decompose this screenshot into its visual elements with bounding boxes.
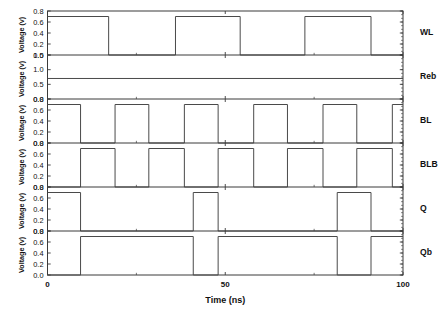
y-tick-label: 0.2 (24, 216, 44, 225)
x-tick-label: 50 (216, 280, 234, 289)
signal-label-reb: Reb (420, 71, 436, 81)
y-tick-label: 0.2 (24, 172, 44, 181)
y-tick-label: 0.8 (24, 227, 44, 236)
signal-label-bl: BL (420, 115, 431, 125)
waveform-trace-bl (48, 105, 404, 144)
y-tick-label: 0.2 (24, 260, 44, 269)
y-tick-label: 0.4 (24, 205, 44, 214)
signal-label-blb: BLB (420, 159, 438, 169)
signal-label-qb: Qb (420, 247, 432, 257)
waveform-trace-blb (48, 149, 404, 188)
x-tick-label: 100 (394, 280, 412, 289)
signal-label-wl: WL (420, 27, 433, 37)
y-tick-label: 0.0 (24, 271, 44, 280)
y-tick-label: 0.8 (24, 7, 44, 16)
y-tick-label: 0.5 (24, 80, 44, 89)
y-tick-label: 0.2 (24, 40, 44, 49)
x-tick-label: 0 (39, 280, 57, 289)
y-axis-title-bl: Voltage (v) (17, 105, 26, 141)
y-tick-label: 0.6 (24, 106, 44, 115)
y-tick-label: 0.4 (24, 117, 44, 126)
y-tick-label: 0.6 (24, 18, 44, 27)
y-tick-label: 0.4 (24, 161, 44, 170)
signal-label-q: Q (420, 203, 427, 213)
y-tick-label: 1.5 (24, 51, 44, 60)
waveform-trace-wl (48, 17, 404, 56)
y-tick-label: 0.6 (24, 194, 44, 203)
waveform-trace-q (48, 193, 404, 232)
waveform-figure: 0.00.20.40.60.8Voltage (v)WL0.00.51.01.5… (0, 0, 442, 312)
y-tick-label: 0.4 (24, 249, 44, 258)
waveform-trace-qb (48, 237, 404, 276)
y-tick-label: 0.4 (24, 29, 44, 38)
y-tick-label: 0.8 (24, 139, 44, 148)
y-axis-title-reb: Voltage (v) (17, 61, 26, 97)
y-tick-label: 0.8 (24, 183, 44, 192)
y-tick-label: 0.2 (24, 128, 44, 137)
y-axis-title-q: Voltage (v) (17, 193, 26, 229)
y-axis-title-blb: Voltage (v) (17, 149, 26, 185)
y-tick-label: 1.0 (24, 65, 44, 74)
y-axis-title-wl: Voltage (v) (17, 17, 26, 53)
y-tick-label: 0.8 (24, 95, 44, 104)
y-axis-title-qb: Voltage (v) (17, 237, 26, 273)
y-tick-label: 0.6 (24, 150, 44, 159)
y-tick-label: 0.6 (24, 238, 44, 247)
plot-canvas (0, 0, 442, 312)
x-axis-title: Time (ns) (48, 295, 404, 305)
